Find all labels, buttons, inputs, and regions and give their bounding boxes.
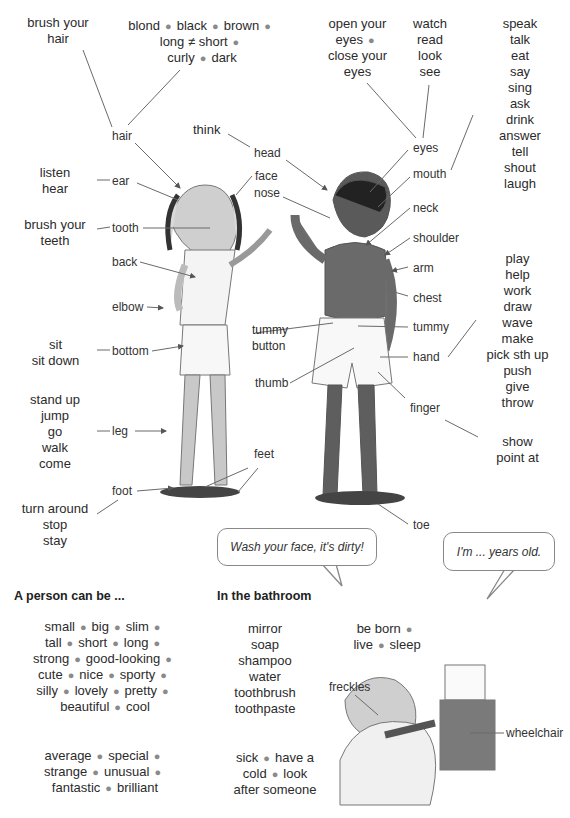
bullet-icon: ● <box>109 621 126 633</box>
label-freckles: freckles <box>329 680 370 694</box>
text-line: pick sth up <box>475 347 560 363</box>
text-line: open your <box>310 16 405 32</box>
bullet-icon: ● <box>69 653 86 665</box>
text-line: hear <box>25 181 85 197</box>
text-line: say <box>490 64 550 80</box>
bullet-icon: ● <box>160 20 177 32</box>
label-eyes: eyes <box>413 141 438 155</box>
word: cute <box>38 667 63 682</box>
text-line: sit <box>18 337 93 353</box>
text-line: jump <box>20 408 90 424</box>
text-line: come <box>20 456 90 472</box>
label-arm: arm <box>413 261 434 275</box>
text-line: stay <box>15 533 95 549</box>
text-line: help <box>475 267 560 283</box>
text-line: tell <box>490 144 550 160</box>
text-line: sing <box>490 80 550 96</box>
word: sleep <box>390 637 421 652</box>
text-line: go <box>20 424 90 440</box>
label-head: head <box>254 146 281 160</box>
label-neck: neck <box>413 201 438 215</box>
text-line: speak <box>490 16 550 32</box>
text-line: sit down <box>18 353 93 369</box>
text-line: make <box>475 331 560 347</box>
bullet-icon: ● <box>109 701 126 713</box>
label-tooth: tooth <box>112 221 139 235</box>
word: small <box>45 619 75 634</box>
hair-verbs: brush your hair <box>18 15 98 47</box>
label-feet: feet <box>254 447 274 461</box>
word: dark <box>211 50 236 65</box>
text-line: stop <box>15 517 95 533</box>
bullet-icon: ● <box>228 36 245 48</box>
word: cold <box>243 766 267 781</box>
adj-row: long ≠ short● <box>112 34 292 50</box>
word: sick <box>236 750 258 765</box>
label-tummy-button: tummy button <box>252 322 288 354</box>
text-line: tummy <box>252 322 288 338</box>
label-shoulder: shoulder <box>413 231 459 245</box>
word: silly <box>36 683 58 698</box>
text-line: answer <box>490 128 550 144</box>
word: be born <box>357 621 401 636</box>
text-line: toothbrush <box>225 685 305 701</box>
text-line: ask <box>490 96 550 112</box>
bullet-icon: ● <box>58 685 75 697</box>
word: look <box>283 766 307 781</box>
bubble-text: Wash your face, it's dirty! <box>230 540 363 554</box>
word: short <box>78 635 107 650</box>
word: after someone <box>233 782 316 797</box>
bullet-icon: ● <box>148 637 165 649</box>
word: blond <box>128 18 160 33</box>
word: tall <box>45 635 62 650</box>
bullet-icon: ● <box>107 637 124 649</box>
label-face: face <box>255 169 278 183</box>
eyes-verbs-see: watch read look see <box>405 16 455 80</box>
word: fantastic <box>52 780 100 795</box>
label-nose: nose <box>254 186 280 200</box>
word: unusual <box>104 764 150 779</box>
label-finger: finger <box>410 401 440 415</box>
foot-verbs: turn around stop stay <box>15 501 95 549</box>
word: beautiful <box>60 699 109 714</box>
adj-row: blond●black●brown● <box>112 18 292 34</box>
label-mouth: mouth <box>413 167 446 181</box>
text-line: laugh <box>490 176 550 192</box>
label-hand: hand <box>413 350 440 364</box>
bullet-icon: ● <box>87 766 104 778</box>
label-tummy: tummy <box>413 320 449 334</box>
text-line: watch <box>405 16 455 32</box>
label-thumb: thumb <box>255 376 288 390</box>
bathroom-items: mirror soap shampoo water toothbrush too… <box>225 621 305 717</box>
label-chest: chest <box>413 291 442 305</box>
text-line: draw <box>475 299 560 315</box>
word: sporty <box>120 667 155 682</box>
person-heading: A person can be ... <box>14 589 125 603</box>
label-foot: foot <box>112 484 132 498</box>
text-line: button <box>252 338 288 354</box>
word: cool <box>126 699 150 714</box>
bullet-icon: ● <box>195 52 212 64</box>
bullet-icon: ● <box>259 20 276 32</box>
bullet-icon: ● <box>63 669 80 681</box>
word: average <box>45 748 92 763</box>
word: brilliant <box>117 780 158 795</box>
text-line: point at <box>485 450 550 466</box>
bullet-icon: ● <box>258 752 275 764</box>
mouth-verbs: speak talk eat say sing ask drink answer… <box>490 16 550 192</box>
tooth-verbs: brush your teeth <box>15 217 95 249</box>
text-line: drink <box>490 112 550 128</box>
text-line: see <box>405 64 455 80</box>
word: strange <box>44 764 87 779</box>
person-adjectives-2: average●special● strange●unusual● fantas… <box>30 748 180 796</box>
text-line: water <box>225 669 305 685</box>
bullet-icon: ● <box>149 750 166 762</box>
bullet-icon: ● <box>267 768 284 780</box>
text-line: turn around <box>15 501 95 517</box>
text-line: work <box>475 283 560 299</box>
text-line: look <box>405 48 455 64</box>
text-line: hair <box>18 31 98 47</box>
text-line: shout <box>490 160 550 176</box>
finger-verbs: show point at <box>485 434 550 466</box>
bullet-icon: ● <box>100 782 117 794</box>
